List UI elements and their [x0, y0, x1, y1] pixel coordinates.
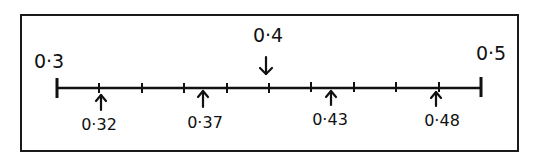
marker-label-0-43: 0·43	[312, 110, 348, 129]
arrow-up-icon	[326, 91, 336, 105]
arrow-down-icon	[260, 57, 272, 74]
marker-label-0-48: 0·48	[424, 111, 460, 130]
marker-label-0-32: 0·32	[81, 115, 117, 134]
arrow-up-icon	[198, 91, 208, 107]
arrow-up-icon	[431, 92, 441, 106]
arrow-up-icon	[96, 95, 106, 110]
marker-label-0-4: 0·4	[253, 24, 283, 46]
start-label: 0·3	[34, 50, 64, 72]
end-label: 0·5	[476, 42, 506, 64]
marker-label-0-37: 0·37	[187, 113, 223, 132]
